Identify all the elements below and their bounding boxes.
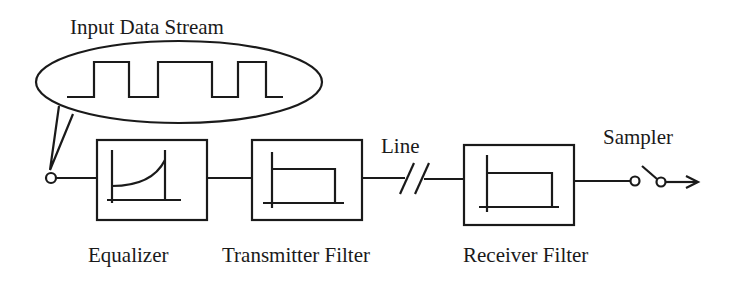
callout-tail bbox=[50, 106, 73, 170]
callout-ellipse bbox=[36, 41, 322, 123]
equalizer-block bbox=[97, 140, 207, 220]
equalizer-box bbox=[97, 140, 207, 220]
receiver-filter-label: Receiver Filter bbox=[463, 243, 588, 267]
transmitter-filter-block bbox=[252, 140, 362, 220]
transmitter-filter-box bbox=[252, 140, 362, 220]
transmitter-filter-label: Transmitter Filter bbox=[222, 243, 370, 267]
square-wave-icon bbox=[67, 62, 283, 97]
input-data-stream-callout bbox=[36, 41, 322, 170]
receiver-filter-box bbox=[464, 145, 574, 225]
equalizer-label: Equalizer bbox=[88, 243, 168, 267]
input-terminal-icon bbox=[46, 173, 56, 183]
block-diagram: Input Data Stream Equalizer Transmitter … bbox=[0, 0, 737, 285]
line-label: Line bbox=[381, 134, 419, 158]
receiver-filter-block bbox=[464, 145, 574, 225]
lowpass-response-icon bbox=[263, 152, 344, 208]
lowpass-response-icon bbox=[479, 155, 559, 212]
rising-curve-response-icon bbox=[107, 150, 181, 203]
sampler-label: Sampler bbox=[603, 125, 673, 149]
sampler-switch-icon bbox=[631, 166, 699, 188]
input-data-stream-label: Input Data Stream bbox=[70, 15, 224, 39]
